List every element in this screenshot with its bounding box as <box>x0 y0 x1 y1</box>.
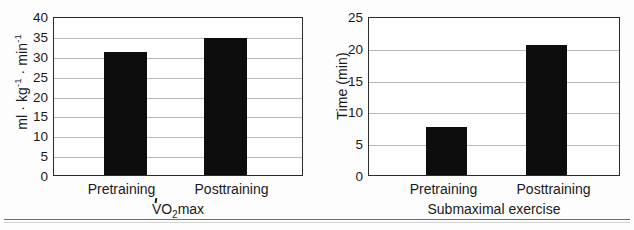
plot-area-submaximal: 0 5 10 15 20 25 <box>368 17 620 176</box>
ytick-label-10: 10 <box>33 131 48 145</box>
ytick-label-15: 15 <box>348 75 363 89</box>
figure-canvas: ml · kg-1 · min-1 0 5 10 15 20 25 30 35 … <box>0 0 634 230</box>
gridline-5 <box>54 157 302 158</box>
v-dot-accent: V <box>152 201 161 217</box>
gridline-10 <box>54 137 302 138</box>
bottom-divider-rule-shadow <box>4 222 630 223</box>
bar-pretraining-submaximal <box>426 127 467 175</box>
ytick-label-25: 25 <box>348 11 363 25</box>
y-axis-title-left-part-b: · min <box>14 43 30 79</box>
bar-pretraining-vo2max <box>104 52 147 175</box>
bar-posttraining-submaximal <box>526 45 567 175</box>
ytick-label-5: 5 <box>355 138 363 152</box>
panel-caption-vo2max: VO2max <box>53 201 303 217</box>
gridline-15 <box>369 82 619 83</box>
ytick-label-15: 15 <box>33 111 48 125</box>
ytick-label-40: 40 <box>33 11 48 25</box>
bar-posttraining-vo2max <box>204 38 247 175</box>
gridline-30 <box>54 58 302 59</box>
ytick-label-20: 20 <box>33 91 48 105</box>
gridline-35 <box>54 38 302 39</box>
ytick-label-30: 30 <box>33 51 48 65</box>
gridline-25 <box>54 78 302 79</box>
gridline-20 <box>369 50 619 51</box>
y-axis-title-left-sup-1: -1 <box>12 78 23 87</box>
y-axis-title-left: ml · kg-1 · min-1 <box>14 22 30 142</box>
y-axis-title-left-part-a: ml · kg <box>14 87 30 130</box>
ytick-label-10: 10 <box>348 107 363 121</box>
gridline-10 <box>369 113 619 114</box>
gridline-15 <box>54 117 302 118</box>
chart-panel-vo2max: ml · kg-1 · min-1 0 5 10 15 20 25 30 35 … <box>0 0 318 230</box>
ytick-label-35: 35 <box>33 31 48 45</box>
gridline-5 <box>369 145 619 146</box>
bottom-divider-rule <box>4 219 630 220</box>
ytick-label-5: 5 <box>40 150 48 164</box>
ytick-label-0: 0 <box>355 170 363 184</box>
category-label-posttraining-left: Posttraining <box>160 181 303 197</box>
caption-max: max <box>178 201 204 217</box>
ytick-label-25: 25 <box>33 71 48 85</box>
gridline-20 <box>54 98 302 99</box>
chart-panel-submaximal: Time (min) 0 5 10 15 20 25 Pretraining P… <box>316 0 634 230</box>
panel-caption-submaximal: Submaximal exercise <box>368 201 620 217</box>
category-label-posttraining-right: Posttraining <box>482 181 625 197</box>
caption-o: O <box>161 201 172 217</box>
plot-area-vo2max: 0 5 10 15 20 25 30 35 40 <box>53 17 303 176</box>
ytick-label-20: 20 <box>348 43 363 57</box>
y-axis-title-left-sup-2: -1 <box>12 34 23 43</box>
ytick-label-0: 0 <box>40 170 48 184</box>
